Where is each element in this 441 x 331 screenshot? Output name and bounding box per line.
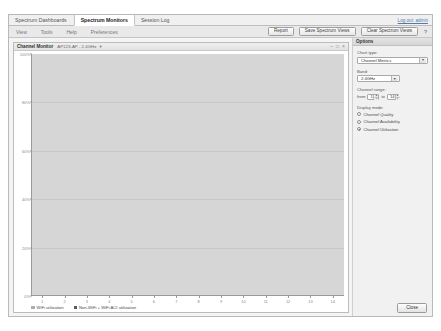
legend-label: WiFi utilization — [37, 305, 64, 310]
help-icon[interactable]: ? — [423, 29, 432, 35]
x-tick — [109, 296, 110, 298]
legend-label: Non-WiFi + WiFi ACI utilization — [79, 305, 136, 310]
chart-plot: 100%80%60%40%20%0% 1234567891011121314 W… — [14, 51, 348, 312]
band-label: Band: — [357, 69, 428, 74]
nav-tab-spectrum-dashboards[interactable]: Spectrum Dashboards — [9, 15, 74, 25]
band-value: 2.4GHz — [361, 76, 391, 81]
range-from-stepper[interactable]: 1 ▲ ▼ — [367, 94, 379, 101]
display-mode-group: Display mode: Channel Quality Channel Av… — [357, 105, 428, 132]
x-tick — [266, 296, 267, 298]
radio-channel-quality[interactable]: Channel Quality — [357, 112, 428, 117]
x-axis-label: 7 — [175, 299, 177, 304]
chart-bar-group[interactable]: 12 — [277, 54, 299, 296]
chart-type-select[interactable]: Channel Metrics ▼ — [357, 57, 428, 64]
stepper-down-icon[interactable]: ▼ — [374, 97, 378, 100]
x-axis-label: 2 — [63, 299, 65, 304]
radio-label: Channel Utilization — [364, 127, 399, 132]
y-axis-label: 80% — [22, 100, 30, 105]
logout-link[interactable]: Log out: admin — [394, 15, 432, 25]
x-axis-label: 13 — [308, 299, 312, 304]
chart-bar-group[interactable]: 10 — [232, 54, 254, 296]
legend-swatch — [74, 306, 78, 310]
stepper-down-icon[interactable]: ▼ — [396, 97, 400, 100]
maximize-icon[interactable]: □ — [336, 44, 339, 49]
radio-label: Channel Availability — [364, 119, 400, 124]
toolbar: View Tools Help Preferences Report Save … — [9, 26, 432, 38]
chart-bar-group[interactable]: 13 — [299, 54, 321, 296]
close-icon[interactable]: × — [342, 44, 345, 49]
options-title: Options — [356, 39, 373, 44]
chart-bar-group[interactable]: 9 — [210, 54, 232, 296]
range-to-value: 14 — [388, 94, 395, 99]
chart-bar-group[interactable]: 2 — [53, 54, 75, 296]
nav-tab-label: Spectrum Dashboards — [15, 17, 67, 23]
x-tick — [288, 296, 289, 298]
x-axis-label: 5 — [130, 299, 132, 304]
band-group: Band: 2.4GHz ▼ — [357, 69, 428, 83]
chart-column: Channel Monitor AP123-AP - 2.4GHz ▾ – □ … — [9, 38, 352, 316]
nav-tab-session-log[interactable]: Session Log — [135, 15, 177, 25]
chevron-down-icon: ▼ — [419, 58, 426, 63]
chart-bars: 1234567891011121314 — [31, 54, 344, 296]
panel-title: Channel Monitor — [17, 44, 53, 49]
band-select[interactable]: 2.4GHz ▼ — [357, 75, 400, 82]
chart-type-group: Chart type: Channel Metrics ▼ — [357, 50, 428, 64]
nav-tab-label: Session Log — [141, 17, 170, 23]
y-axis-label: 0% — [24, 294, 30, 299]
x-tick — [199, 296, 200, 298]
save-spectrum-views-button[interactable]: Save Spectrum Views — [299, 27, 356, 37]
radio-channel-utilization[interactable]: Channel Utilization — [357, 127, 428, 132]
x-tick — [333, 296, 334, 298]
chart-bar-group[interactable]: 11 — [255, 54, 277, 296]
channel-range-row: from 1 ▲ ▼ to 14 ▲ — [357, 94, 428, 101]
options-body: Chart type: Channel Metrics ▼ Band: 2.4G… — [353, 46, 432, 300]
channel-range-label: Channel range: — [357, 87, 428, 92]
options-footer: Close — [353, 300, 432, 316]
channel-range-group: Channel range: from 1 ▲ ▼ to 14 — [357, 87, 428, 100]
x-axis-label: 1 — [41, 299, 43, 304]
chart-bar-group[interactable]: 5 — [120, 54, 142, 296]
chevron-down-icon[interactable]: ▾ — [99, 44, 101, 49]
menu-tools[interactable]: Tools — [34, 26, 60, 38]
x-axis-label: 8 — [198, 299, 200, 304]
close-button[interactable]: Close — [397, 303, 427, 314]
display-mode-label: Display mode: — [357, 105, 428, 110]
nav-spacer — [176, 15, 393, 26]
radio-icon — [357, 127, 361, 131]
x-axis-label: 10 — [241, 299, 245, 304]
x-tick — [65, 296, 66, 298]
stepper-buttons: ▲ ▼ — [373, 95, 378, 100]
stepper-buttons: ▲ ▼ — [395, 95, 400, 100]
to-label: to — [381, 94, 385, 99]
legend-item-wifi: WiFi utilization — [31, 305, 64, 310]
x-tick — [221, 296, 222, 298]
main-navigation: Spectrum Dashboards Spectrum Monitors Se… — [9, 15, 432, 26]
menu-view[interactable]: View — [9, 26, 34, 38]
options-header: Options — [353, 38, 432, 46]
report-button[interactable]: Report — [268, 27, 294, 37]
chart-legend: WiFi utilization Non-WiFi + WiFi ACI uti… — [31, 305, 136, 310]
x-axis-label: 12 — [286, 299, 290, 304]
chart-bar-group[interactable]: 4 — [98, 54, 120, 296]
menu-preferences[interactable]: Preferences — [84, 26, 125, 38]
chart-bar-group[interactable]: 3 — [76, 54, 98, 296]
chart-type-value: Channel Metrics — [361, 58, 419, 63]
range-to-stepper[interactable]: 14 ▲ ▼ — [387, 94, 399, 101]
menu-help[interactable]: Help — [59, 26, 83, 38]
chart-bar-group[interactable]: 6 — [143, 54, 165, 296]
legend-item-non-wifi: Non-WiFi + WiFi ACI utilization — [74, 305, 137, 310]
radio-channel-availability[interactable]: Channel Availability — [357, 119, 428, 124]
clear-spectrum-views-button[interactable]: Clear Spectrum Views — [361, 27, 418, 37]
x-axis-label: 6 — [153, 299, 155, 304]
x-tick — [310, 296, 311, 298]
nav-tab-spectrum-monitors[interactable]: Spectrum Monitors — [74, 15, 135, 26]
content-area: Channel Monitor AP123-AP - 2.4GHz ▾ – □ … — [9, 38, 432, 316]
chart-bar-group[interactable]: 14 — [322, 54, 344, 296]
x-tick — [87, 296, 88, 298]
channel-monitor-panel: Channel Monitor AP123-AP - 2.4GHz ▾ – □ … — [13, 42, 349, 313]
minimize-icon[interactable]: – — [330, 44, 333, 49]
chart-area: 100%80%60%40%20%0% 1234567891011121314 — [31, 54, 344, 296]
chart-bar-group[interactable]: 1 — [31, 54, 53, 296]
chart-bar-group[interactable]: 7 — [165, 54, 187, 296]
chart-bar-group[interactable]: 8 — [188, 54, 210, 296]
